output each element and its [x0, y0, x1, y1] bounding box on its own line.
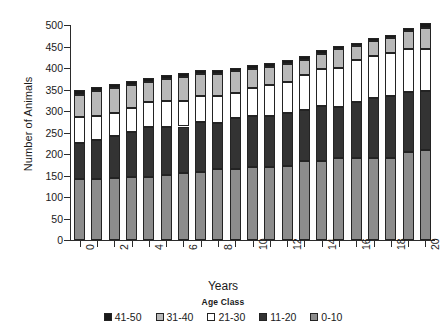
bar-segment-41-50[interactable] — [351, 43, 362, 46]
bar-segment-11-20[interactable] — [299, 110, 310, 162]
legend-item[interactable]: 31-40 — [156, 311, 194, 323]
legend-item[interactable]: 41-50 — [104, 311, 142, 323]
bar-segment-21-30[interactable] — [195, 96, 206, 122]
bar[interactable] — [351, 25, 362, 240]
bar-segment-0-10[interactable] — [316, 161, 327, 240]
bar[interactable] — [403, 25, 414, 240]
bar-segment-41-50[interactable] — [195, 70, 206, 74]
bar-segment-31-40[interactable] — [368, 41, 379, 56]
bar-segment-0-10[interactable] — [178, 173, 189, 240]
bar[interactable] — [264, 25, 275, 240]
bar-segment-11-20[interactable] — [212, 123, 223, 169]
bar-segment-21-30[interactable] — [126, 108, 137, 132]
bar-segment-21-30[interactable] — [74, 117, 85, 143]
bar-segment-21-30[interactable] — [178, 101, 189, 126]
bar-segment-31-40[interactable] — [195, 74, 206, 96]
bar-segment-31-40[interactable] — [316, 54, 327, 69]
bar-segment-41-50[interactable] — [420, 23, 431, 29]
bar-segment-11-20[interactable] — [368, 98, 379, 158]
bar-segment-31-40[interactable] — [161, 79, 172, 101]
bar-segment-11-20[interactable] — [420, 91, 431, 150]
bar[interactable] — [161, 25, 172, 240]
bar-segment-11-20[interactable] — [316, 106, 327, 161]
bar-segment-11-20[interactable] — [109, 136, 120, 179]
bar[interactable] — [195, 25, 206, 240]
bar-segment-31-40[interactable] — [264, 67, 275, 85]
legend-item[interactable]: 0-10 — [310, 311, 342, 323]
bar-segment-41-50[interactable] — [368, 38, 379, 41]
bar-segment-21-30[interactable] — [420, 49, 431, 92]
bar-segment-11-20[interactable] — [230, 118, 241, 169]
bar[interactable] — [126, 25, 137, 240]
bar[interactable] — [109, 25, 120, 240]
bar-segment-31-40[interactable] — [247, 69, 258, 88]
bar[interactable] — [282, 25, 293, 240]
bar-segment-41-50[interactable] — [230, 68, 241, 72]
bar-segment-21-30[interactable] — [247, 88, 258, 116]
bar-segment-21-30[interactable] — [316, 69, 327, 106]
bar-segment-11-20[interactable] — [403, 92, 414, 152]
bar-segment-21-30[interactable] — [91, 116, 102, 140]
bar-segment-0-10[interactable] — [420, 150, 431, 240]
bar-segment-0-10[interactable] — [91, 179, 102, 240]
bar-segment-11-20[interactable] — [282, 113, 293, 166]
bar-segment-31-40[interactable] — [74, 95, 85, 117]
bar-segment-21-30[interactable] — [333, 68, 344, 107]
bar-segment-41-50[interactable] — [299, 56, 310, 60]
bar-segment-0-10[interactable] — [282, 166, 293, 240]
bar-segment-21-30[interactable] — [368, 56, 379, 98]
bar-segment-31-40[interactable] — [282, 64, 293, 82]
bar-segment-21-30[interactable] — [143, 102, 154, 127]
bar[interactable] — [420, 25, 431, 240]
bar-segment-21-30[interactable] — [299, 75, 310, 109]
bar[interactable] — [178, 25, 189, 240]
bar-segment-31-40[interactable] — [333, 49, 344, 67]
bar[interactable] — [74, 25, 85, 240]
bar-segment-0-10[interactable] — [247, 167, 258, 240]
bar[interactable] — [299, 25, 310, 240]
bar-segment-41-50[interactable] — [316, 50, 327, 53]
bar-segment-21-30[interactable] — [264, 85, 275, 116]
bar-segment-41-50[interactable] — [143, 78, 154, 82]
bar-segment-31-40[interactable] — [351, 46, 362, 60]
bar-segment-31-40[interactable] — [178, 77, 189, 101]
bar-segment-0-10[interactable] — [385, 158, 396, 240]
bar-segment-11-20[interactable] — [161, 127, 172, 175]
bar-segment-31-40[interactable] — [230, 71, 241, 93]
bar-segment-11-20[interactable] — [143, 127, 154, 177]
bar-segment-11-20[interactable] — [91, 140, 102, 180]
bar-segment-41-50[interactable] — [212, 70, 223, 74]
bar-segment-41-50[interactable] — [91, 87, 102, 91]
bar-segment-31-40[interactable] — [91, 91, 102, 116]
bar[interactable] — [230, 25, 241, 240]
bar-segment-0-10[interactable] — [195, 172, 206, 240]
bar-segment-11-20[interactable] — [385, 96, 396, 158]
bar-segment-0-10[interactable] — [351, 158, 362, 240]
bar-segment-41-50[interactable] — [333, 46, 344, 49]
bar-segment-0-10[interactable] — [161, 175, 172, 240]
bar-segment-21-30[interactable] — [212, 96, 223, 123]
legend-item[interactable]: 21-30 — [207, 311, 245, 323]
bar-segment-31-40[interactable] — [403, 31, 414, 48]
bar-segment-21-30[interactable] — [385, 53, 396, 96]
bar-segment-0-10[interactable] — [230, 169, 241, 240]
bar-segment-31-40[interactable] — [109, 88, 120, 113]
bar-segment-11-20[interactable] — [351, 102, 362, 158]
bar-segment-21-30[interactable] — [161, 101, 172, 127]
bar[interactable] — [143, 25, 154, 240]
bar-segment-21-30[interactable] — [109, 113, 120, 135]
bar-segment-31-40[interactable] — [420, 28, 431, 48]
bar-segment-41-50[interactable] — [385, 35, 396, 38]
bar-segment-11-20[interactable] — [178, 127, 189, 174]
bar-segment-21-30[interactable] — [230, 93, 241, 118]
bar-segment-0-10[interactable] — [333, 158, 344, 240]
bar-segment-31-40[interactable] — [126, 85, 137, 107]
bar-segment-0-10[interactable] — [403, 152, 414, 240]
bar-segment-0-10[interactable] — [109, 178, 120, 240]
bar-segment-21-30[interactable] — [403, 49, 414, 92]
bar-segment-21-30[interactable] — [351, 60, 362, 101]
bar-segment-31-40[interactable] — [385, 38, 396, 53]
bar[interactable] — [385, 25, 396, 240]
bar-segment-41-50[interactable] — [178, 73, 189, 77]
bar-segment-41-50[interactable] — [247, 65, 258, 69]
